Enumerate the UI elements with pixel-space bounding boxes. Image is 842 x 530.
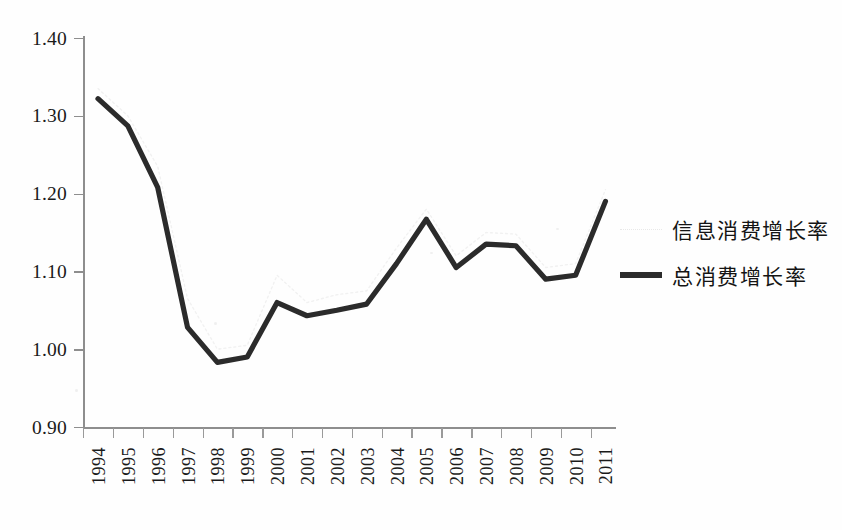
y-axis-tick-label: 1.20 (32, 183, 67, 205)
scan-speck (556, 228, 559, 230)
x-axis-tick-label: 2006 (447, 447, 468, 485)
x-axis-tick (471, 428, 472, 438)
x-axis-tick (232, 428, 233, 438)
y-axis-tick: 1.40 (74, 38, 83, 39)
y-axis-tick-label: 1.30 (32, 105, 67, 127)
y-axis-tick-label: 0.90 (32, 416, 67, 438)
scan-speck (214, 322, 217, 325)
y-axis-tick: 1.00 (74, 349, 83, 350)
x-axis-tick-label: 2002 (328, 447, 349, 485)
x-axis-tick (292, 428, 293, 438)
x-axis-tick (561, 428, 562, 438)
x-axis-tick-label: 1999 (238, 447, 259, 485)
x-axis-tick-label: 2001 (298, 447, 319, 485)
x-axis-tick (441, 428, 442, 438)
x-axis-tick-label: 1994 (89, 447, 110, 485)
chart-legend: 信息消费增长率 总消费增长率 (620, 206, 835, 298)
x-axis-tick-label: 2008 (507, 447, 528, 485)
y-axis-tick-label: 1.00 (32, 338, 67, 360)
legend-swatch-bold-line-icon (620, 272, 662, 279)
y-axis-tick-label: 1.40 (32, 27, 67, 49)
x-axis-tick (591, 428, 592, 438)
legend-swatch-faint-line-icon (620, 229, 662, 230)
x-axis-tick (352, 428, 353, 438)
x-axis-tick-label: 2004 (388, 447, 409, 485)
scan-speck (430, 252, 433, 254)
x-axis-tick-label: 1997 (179, 447, 200, 485)
x-axis-tick-label: 2009 (537, 447, 558, 485)
x-axis-tick-label: 2005 (417, 447, 438, 485)
x-axis-tick (322, 428, 323, 438)
x-axis-tick-label: 2007 (477, 447, 498, 485)
x-axis-line (83, 427, 616, 429)
chart-figure: 0.901.001.101.201.301.40 199419951996199… (0, 0, 842, 530)
legend-label-total-consumption: 总消费增长率 (672, 260, 807, 290)
series-line (98, 89, 605, 350)
x-axis-tick (83, 428, 84, 438)
x-axis-tick (113, 428, 114, 438)
y-axis-line (83, 36, 85, 429)
x-axis-tick-label: 2003 (358, 447, 379, 485)
x-axis-tick (262, 428, 263, 438)
x-axis-tick (203, 428, 204, 438)
y-axis-tick: 1.20 (74, 194, 83, 195)
x-axis-tick (382, 428, 383, 438)
x-axis-tick (173, 428, 174, 438)
x-axis-tick-label: 2011 (596, 447, 617, 484)
y-axis-tick: 1.30 (74, 116, 83, 117)
legend-label-information-consumption: 信息消费增长率 (672, 214, 830, 244)
y-axis-tick: 0.90 (74, 427, 83, 428)
x-axis-tick-label: 1998 (208, 447, 229, 485)
x-axis-tick (531, 428, 532, 438)
series-line (98, 99, 605, 363)
x-axis-tick-label: 1996 (149, 447, 170, 485)
scan-speck (75, 389, 78, 392)
legend-item-total-consumption: 总消费增长率 (620, 252, 835, 298)
x-axis-tick-label: 2000 (268, 447, 289, 485)
x-axis-tick-label: 2010 (567, 447, 588, 485)
x-axis-tick (143, 428, 144, 438)
y-axis-tick-label: 1.10 (32, 261, 67, 283)
legend-item-information-consumption: 信息消费增长率 (620, 206, 835, 252)
x-axis-tick (501, 428, 502, 438)
x-axis-tick (411, 428, 412, 438)
y-axis-tick: 1.10 (74, 271, 83, 272)
x-axis-tick-label: 1995 (119, 447, 140, 485)
